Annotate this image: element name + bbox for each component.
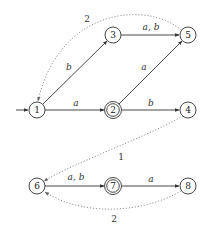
edge-1-3 [43,41,107,104]
svg-text:4: 4 [185,105,191,115]
state-5: 5 [180,27,196,43]
svg-text:7: 7 [110,181,116,191]
edge-label-6-7: a, b [68,172,85,182]
dotted-label-4-6: 1 [118,152,124,162]
state-4: 4 [180,102,196,118]
edge-label-2-4: b [148,98,154,108]
state-3: 3 [105,27,121,43]
svg-text:5: 5 [185,30,191,40]
edge-label-7-8: a [148,174,153,184]
edge-label-3-5: a, b [143,22,160,32]
automaton-diagram: a b a, b a b a, b a 2 1 2 1 2 3 4 5 6 [0,0,209,235]
edge-2-5 [119,41,182,104]
svg-text:1: 1 [34,105,40,115]
svg-text:3: 3 [110,30,116,40]
state-1: 1 [29,102,45,118]
dotted-label-5-1: 2 [84,14,90,24]
edge-label-2-5: a [141,62,146,72]
svg-text:8: 8 [185,181,191,191]
svg-text:2: 2 [110,105,116,115]
svg-text:6: 6 [34,181,40,191]
dotted-label-8-6: 2 [111,214,117,224]
state-6: 6 [29,178,45,194]
dotted-edge-4-6 [44,116,183,181]
state-2-accepting: 2 [105,102,122,119]
edge-label-1-3: b [66,62,72,72]
edge-label-1-2: a [73,98,78,108]
state-7-accepting: 7 [105,178,122,195]
state-8: 8 [180,178,196,194]
